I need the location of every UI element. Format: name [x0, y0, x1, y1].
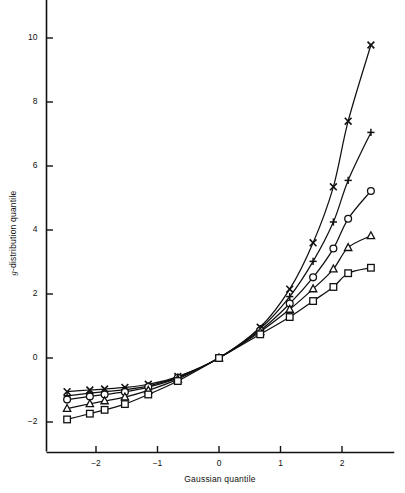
x-tick-label: 0 — [199, 458, 239, 468]
marker-square — [145, 391, 152, 398]
marker-triangle — [101, 397, 108, 404]
series-line — [67, 191, 371, 400]
data-series — [63, 232, 374, 412]
y-tick-label: −2 — [0, 416, 38, 426]
chart-figure: −20246810−2−1012 g-distribution quantile… — [0, 0, 405, 493]
marker-circle — [330, 245, 337, 252]
marker-square — [310, 298, 317, 305]
x-tick-label: 1 — [261, 458, 301, 468]
marker-circle — [368, 188, 375, 195]
marker-circle — [310, 274, 317, 281]
series-markers — [63, 232, 374, 412]
series-line — [67, 268, 371, 420]
y-tick-label: 10 — [0, 32, 38, 42]
marker-triangle — [367, 232, 374, 239]
data-series — [64, 42, 375, 395]
marker-triangle — [86, 400, 93, 407]
x-tick-label: 2 — [322, 458, 362, 468]
marker-square — [257, 331, 264, 338]
series-markers — [64, 264, 374, 422]
y-tick-label: 4 — [0, 224, 38, 234]
marker-square — [87, 410, 94, 417]
marker-square — [286, 314, 293, 321]
marker-square — [345, 270, 352, 277]
y-tick-label: 8 — [0, 96, 38, 106]
x-tick-label: −1 — [138, 458, 178, 468]
data-series — [64, 264, 374, 422]
y-tick-label: 0 — [0, 352, 38, 362]
marker-square — [368, 264, 375, 271]
x-tick-label: −2 — [76, 458, 116, 468]
y-tick-label: 6 — [0, 160, 38, 170]
series-markers — [64, 42, 375, 395]
marker-square — [174, 378, 181, 385]
series-markers — [64, 188, 375, 403]
y-axis-label: g-distribution quantile — [8, 173, 18, 293]
marker-circle — [345, 215, 352, 222]
y-axis-label-suffix: -distribution quantile — [8, 191, 18, 271]
axis-layer — [47, 0, 395, 452]
data-series — [64, 188, 375, 403]
series-line — [67, 45, 371, 392]
qq-plot-canvas — [0, 0, 405, 493]
marker-triangle — [344, 244, 351, 251]
marker-square — [122, 401, 129, 408]
marker-circle — [64, 396, 71, 403]
marker-square — [101, 407, 108, 414]
marker-square — [64, 416, 71, 423]
data-series-layer — [63, 42, 374, 423]
marker-square — [330, 284, 337, 291]
y-axis-label-prefix: g — [8, 271, 18, 275]
x-axis-label: Gaussian quantile — [150, 474, 290, 484]
y-tick-label: 2 — [0, 288, 38, 298]
marker-square — [216, 355, 223, 362]
